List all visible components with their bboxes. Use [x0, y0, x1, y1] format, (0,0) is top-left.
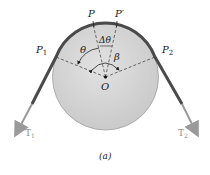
label-p: P — [87, 8, 95, 19]
label-delta-theta: Δθ — [98, 35, 111, 45]
label-beta: β — [113, 51, 120, 62]
tension-arrow-t2 — [182, 104, 197, 134]
point-p-prime-marker — [117, 21, 118, 27]
label-o: O — [101, 81, 109, 92]
caption: (a) — [99, 151, 112, 161]
label-p-prime: P′ — [114, 8, 125, 19]
label-theta: θ — [80, 44, 86, 55]
label-t1: T1 — [25, 128, 35, 139]
center-point-o — [104, 75, 107, 78]
belt-friction-diagram: P P′ P1 P2 θ Δθ β O T1 T2 (a) — [0, 0, 210, 175]
diagram-canvas: P P′ P1 P2 θ Δθ β O T1 T2 (a) — [0, 0, 210, 175]
label-p2: P2 — [161, 44, 173, 57]
label-p1: P1 — [35, 44, 47, 57]
label-t2: T2 — [178, 128, 188, 139]
